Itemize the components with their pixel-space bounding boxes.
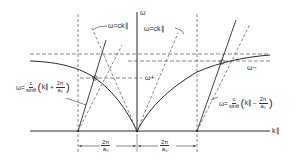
left-formula-var: k∥ xyxy=(42,83,49,91)
leader-left-light-line xyxy=(93,26,107,30)
dimension-left-num: 2π xyxy=(101,139,110,146)
right-inner-den: a₀ xyxy=(260,104,265,110)
left-zone-point xyxy=(77,130,79,132)
omega-minus-label: ω− xyxy=(247,64,257,71)
right-light-line-label: ω=ck∥ xyxy=(144,25,165,32)
origin-point xyxy=(136,130,139,133)
left-formula-op: + xyxy=(50,84,54,91)
k-axis-label: k∥ xyxy=(272,127,280,134)
right-branch-formula: ω= c sinθ ( k∥ − 2π a₀ ) xyxy=(219,97,273,109)
right-zone-point xyxy=(196,130,198,132)
right-diffraction-line-dashed xyxy=(197,24,250,131)
left-formula-fraction: c sinθ xyxy=(26,81,36,93)
omega-axis-label: ω xyxy=(140,9,145,16)
left-formula-den: sinθ xyxy=(26,88,36,94)
right-light-line xyxy=(137,33,178,131)
omega-plus-label: ω+ xyxy=(145,74,155,81)
leader-right-formula xyxy=(211,97,218,100)
left-light-line-label: ω=ck∥ xyxy=(108,22,129,29)
dimension-left-den: a₀ xyxy=(103,146,109,152)
leader-right-light-line xyxy=(175,28,184,34)
right-formula-var: k∥ xyxy=(245,99,252,107)
dimension-label-right: 2π a₀ xyxy=(160,139,169,152)
right-formula-op: − xyxy=(253,100,257,107)
dimension-right-num: 2π xyxy=(160,139,169,146)
left-formula-inner-fraction: 2π a₀ xyxy=(56,81,65,93)
left-inner-den: a₀ xyxy=(57,88,62,94)
left-formula-lhs: ω= xyxy=(16,84,25,91)
right-formula-den: sinθ xyxy=(229,104,239,110)
dimension-right-den: a₀ xyxy=(162,146,168,152)
left-diffraction-line-dashed xyxy=(78,45,122,131)
right-diffraction-line xyxy=(197,20,236,131)
dimension-label-left: 2π a₀ xyxy=(101,139,110,152)
left-branch-formula: ω= c sinθ ( k∥ + 2π a₀ ) xyxy=(16,81,70,93)
left-light-line xyxy=(92,28,137,131)
right-formula-fraction: c sinθ xyxy=(229,97,239,109)
leader-left-formula xyxy=(66,98,86,105)
right-formula-lhs: ω= xyxy=(219,100,228,107)
right-formula-inner-fraction: 2π a₀ xyxy=(259,97,268,109)
